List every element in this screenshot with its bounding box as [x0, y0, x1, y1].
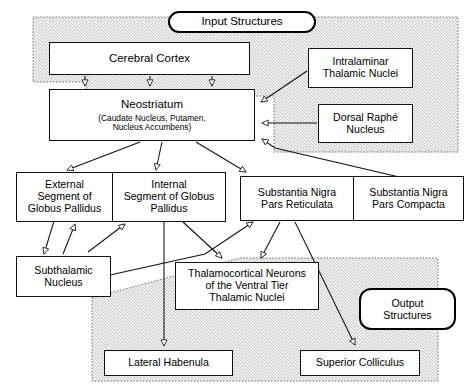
node-substantia-nigra-pars-compacta[interactable]: Substantia Nigra Pars Compacta: [353, 176, 464, 221]
diagram-canvas: Cerebral Cortex Neostriatum (Caudate Nuc…: [0, 0, 470, 389]
snr-label-1: Substantia Nigra: [258, 187, 336, 199]
gpe-label-3: Globus Pallidus: [28, 203, 102, 215]
output-structures-label-2: Structures: [383, 309, 431, 321]
node-subthalamic-nucleus[interactable]: Subthalamic Nucleus: [16, 256, 111, 297]
thalamocortical-label-3: Thalamic Nuclei: [209, 292, 284, 304]
stn-label-1: Subthalamic: [34, 265, 92, 277]
lateral-habenula-label: Lateral Habenula: [128, 357, 209, 369]
node-superior-colliculus[interactable]: Superior Colliculus: [300, 350, 420, 376]
snc-label-1: Substantia Nigra: [369, 187, 447, 199]
node-cerebral-cortex[interactable]: Cerebral Cortex: [49, 42, 250, 75]
node-lateral-habenula[interactable]: Lateral Habenula: [104, 350, 233, 376]
input-structures-label: Input Structures: [201, 15, 282, 28]
node-substantia-nigra-pars-reticulata[interactable]: Substantia Nigra Pars Reticulata: [240, 176, 354, 221]
node-external-globus-pallidus[interactable]: External Segment of Globus Pallidus: [16, 172, 113, 222]
node-dorsal-raphe-nucleus[interactable]: Dorsal Raphé Nucleus: [318, 104, 413, 143]
superior-colliculus-label: Superior Colliculus: [316, 357, 404, 369]
output-structures-label-1: Output: [392, 297, 424, 309]
cerebral-cortex-label: Cerebral Cortex: [109, 52, 190, 65]
neostriatum-subtitle-2: Nucleus Accumbens): [113, 123, 192, 132]
neostriatum-label: Neostriatum: [121, 98, 183, 111]
snc-label-2: Pars Compacta: [372, 199, 445, 211]
gpi-label-3: Pallidus: [150, 203, 187, 215]
node-thalamocortical-neurons[interactable]: Thalamocortical Neurons of the Ventral T…: [175, 262, 319, 310]
intralaminar-label-2: Thalamic Nuclei: [323, 68, 398, 80]
node-intralaminar-thalamic-nuclei[interactable]: Intralaminar Thalamic Nuclei: [308, 48, 413, 88]
output-structures-pill[interactable]: Output Structures: [359, 288, 456, 330]
dorsal-raphe-label-2: Nucleus: [346, 124, 384, 136]
node-neostriatum[interactable]: Neostriatum (Caudate Nucleus, Putamen, N…: [49, 89, 255, 141]
node-internal-globus-pallidus[interactable]: Internal Segment of Globus Pallidus: [112, 172, 226, 222]
snr-label-2: Pars Reticulata: [261, 199, 333, 211]
input-structures-pill[interactable]: Input Structures: [168, 11, 316, 33]
dorsal-raphe-label-1: Dorsal Raphé: [333, 112, 398, 124]
stn-label-2: Nucleus: [44, 277, 82, 289]
